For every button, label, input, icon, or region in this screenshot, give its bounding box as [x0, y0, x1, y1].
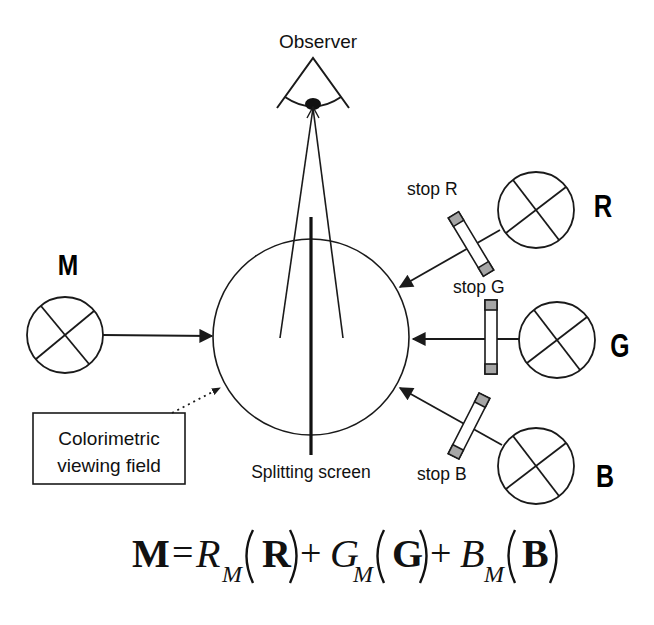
lamp-icon	[498, 172, 574, 248]
paren-open	[378, 530, 385, 583]
observer-label: Observer	[279, 31, 358, 52]
term-b-coef: B	[460, 531, 484, 576]
lamp-g: G stop G	[413, 277, 630, 378]
equation-equals: =	[172, 531, 193, 573]
stop-b-label: stop B	[417, 464, 467, 484]
splitting-screen-label: Splitting screen	[251, 462, 371, 482]
equation-plus-2: +	[430, 532, 451, 574]
callout-line-1: Colorimetric	[58, 428, 159, 449]
sight-line-left	[280, 108, 313, 338]
equation: M = R M R + G M G + B M B	[132, 530, 557, 587]
lamp-b: B stop B	[400, 388, 614, 504]
lamp-m-label: M	[58, 248, 78, 282]
stop-r-filter	[448, 212, 493, 276]
lamp-icon	[519, 302, 595, 378]
lamp-icon	[27, 297, 103, 373]
lamp-icon	[498, 428, 574, 504]
term-r-coef: R	[195, 531, 220, 576]
stop-g-label: stop G	[453, 277, 505, 297]
lamp-b-label: B	[596, 458, 614, 494]
stop-r-label: stop R	[407, 179, 458, 199]
term-b-sub: M	[483, 561, 506, 587]
sight-line-right	[313, 108, 343, 338]
observer: Observer	[277, 31, 358, 110]
term-r-primary: R	[262, 531, 292, 576]
paren-close	[550, 530, 557, 583]
paren-close	[290, 530, 297, 583]
term-g-sub: M	[352, 561, 375, 587]
stop-b-filter	[448, 393, 490, 459]
eye-icon	[277, 58, 349, 110]
paren-open	[509, 530, 516, 583]
callout-dotted-arrow	[172, 388, 220, 413]
term-b-primary: B	[522, 531, 549, 576]
lamp-r: R stop R	[400, 172, 612, 287]
viewing-field-callout: Colorimetric viewing field	[33, 388, 220, 484]
equation-lhs: M	[132, 531, 170, 576]
lamp-m-beam-arrow	[103, 335, 212, 336]
lamp-m: M	[27, 248, 212, 373]
stop-g-filter	[485, 300, 497, 374]
lamp-g-label: G	[610, 328, 629, 364]
term-g-primary: G	[392, 531, 423, 576]
term-r-sub: M	[221, 561, 244, 587]
callout-line-2: viewing field	[57, 455, 161, 476]
equation-plus-1: +	[300, 532, 321, 574]
colorimeter-diagram: Observer Splitting screen M R	[0, 0, 654, 625]
paren-open	[247, 530, 254, 583]
lamp-r-label: R	[594, 188, 613, 223]
